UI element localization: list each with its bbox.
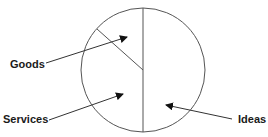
product-types-diagram: Goods Services Ideas [0, 0, 268, 137]
ideas-label: Ideas [238, 113, 266, 125]
services-arrow [49, 94, 123, 120]
ideas-arrow [166, 105, 232, 119]
services-label: Services [3, 113, 48, 125]
goods-arrow [46, 37, 127, 63]
divider-diagonal [97, 29, 143, 70]
goods-label: Goods [10, 58, 45, 70]
